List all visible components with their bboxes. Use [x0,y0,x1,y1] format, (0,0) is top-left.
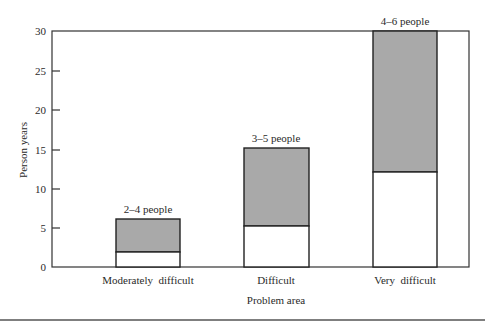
y-tick-10: 10 [35,183,47,195]
x-axis-label: Problem area [247,294,305,306]
y-tick-20: 20 [35,104,47,116]
y-tick-30: 30 [35,25,47,37]
bar-difficult [244,148,309,267]
y-tick-25: 25 [35,65,47,77]
y-tick-0: 0 [41,261,47,273]
x-label-moderately-difficult: Moderately difficult [102,274,193,286]
y-ticks [52,71,60,228]
annotation-bar-3: 4–6 people [381,15,430,27]
y-axis-label: Person years [17,122,29,178]
annotation-bar-2: 3–5 people [252,132,301,144]
bar-very-difficult [373,31,437,267]
y-tick-15: 15 [35,144,47,156]
x-label-difficult: Difficult [257,274,295,286]
chart: 0 5 10 15 20 25 30 Person years 2–4 peop… [0,0,485,322]
x-label-very-difficult: Very difficult [374,274,436,286]
y-tick-5: 5 [41,222,47,234]
annotation-bar-1: 2–4 people [124,203,173,215]
bar-moderately-difficult [116,219,180,267]
